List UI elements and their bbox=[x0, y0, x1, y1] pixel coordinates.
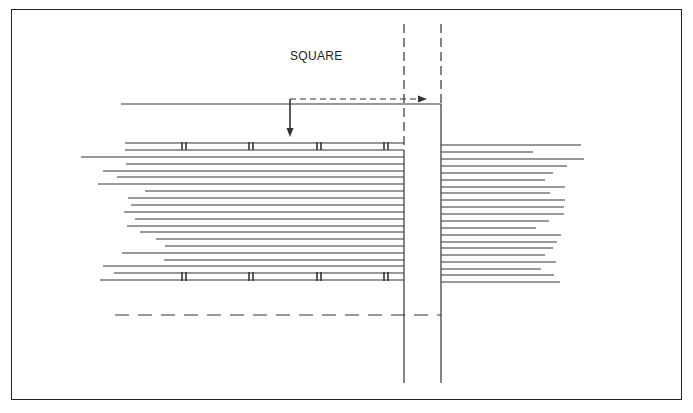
arrow-down-head-icon bbox=[287, 128, 294, 137]
left-deck-boards bbox=[81, 143, 404, 280]
arrow-right-head-icon bbox=[418, 96, 427, 103]
deck-layout-diagram: SQUARE bbox=[0, 0, 693, 413]
post-lines bbox=[404, 24, 441, 383]
diagram-drawing bbox=[0, 0, 693, 413]
right-deck-boards bbox=[441, 145, 584, 282]
square-label: SQUARE bbox=[290, 49, 342, 63]
